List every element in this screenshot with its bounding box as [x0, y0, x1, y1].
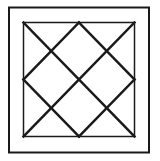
lattice-window-diagram — [0, 0, 160, 161]
diagonal-lattice — [24, 23, 135, 137]
